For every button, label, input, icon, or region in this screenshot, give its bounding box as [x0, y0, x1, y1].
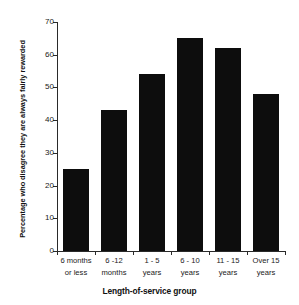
bar — [63, 169, 89, 251]
y-axis-tick-label: 20 — [45, 181, 54, 190]
x-axis-category-label: 6 - 10years — [171, 255, 209, 278]
x-axis-category-label-line1: 6 - 10 — [180, 256, 199, 265]
x-axis-category-label: 6 monthsor less — [57, 255, 95, 278]
plot-area: 010203040506070 — [57, 22, 285, 251]
y-axis-tick-label: 60 — [45, 50, 54, 59]
x-axis-category-label-line2: or less — [57, 267, 95, 279]
y-axis-line — [57, 22, 58, 251]
x-axis-category-label-line1: 6 months — [60, 256, 91, 265]
x-axis-category-label-line2: months — [95, 267, 133, 279]
x-axis-category-label-line2: years — [209, 267, 247, 279]
bar — [139, 74, 165, 251]
bar-chart-figure: Percentage who disagree they are always … — [0, 0, 299, 305]
x-axis-category-label-line1: 11 - 15 — [216, 256, 239, 265]
x-axis-category-label: 6 -12months — [95, 255, 133, 278]
x-axis-tick-mark — [285, 251, 286, 255]
y-axis-tick-label: 30 — [45, 148, 54, 157]
y-axis-tick-label: 70 — [45, 17, 54, 26]
x-axis-category-label: 1 - 5years — [133, 255, 171, 278]
x-axis-title: Length-of-service group — [0, 286, 299, 296]
bar — [215, 48, 241, 251]
x-axis-category-label: 11 - 15years — [209, 255, 247, 278]
x-axis-category-label-line1: Over 15 — [252, 256, 279, 265]
x-axis-category-label-line2: years — [247, 267, 285, 279]
x-axis-category-label-line1: 6 -12 — [105, 256, 122, 265]
cropped-page-title — [0, 0, 299, 8]
y-axis-title: Percentage who disagree they are always … — [10, 28, 36, 250]
y-axis-tick-label: 40 — [45, 115, 54, 124]
x-axis-category-label-line1: 1 - 5 — [144, 256, 159, 265]
x-axis-category-label: Over 15years — [247, 255, 285, 278]
bar — [101, 110, 127, 251]
y-axis-tick-label: 50 — [45, 82, 54, 91]
y-axis-title-text: Percentage who disagree they are always … — [18, 28, 28, 250]
y-axis-tick-label: 10 — [45, 213, 54, 222]
bar — [177, 38, 203, 251]
x-axis-category-label-line2: years — [133, 267, 171, 279]
x-axis-category-label-line2: years — [171, 267, 209, 279]
x-axis-category-labels: 6 monthsor less6 -12months1 - 5years6 - … — [57, 255, 285, 283]
bar — [253, 94, 279, 251]
y-axis-tick-label: 0 — [50, 246, 54, 255]
